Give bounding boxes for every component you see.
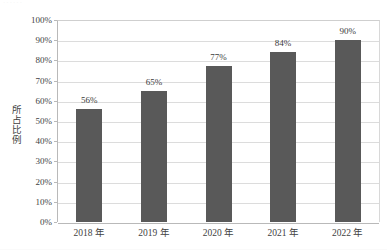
y-tick-label: 10% — [16, 198, 52, 207]
bar-value-label: 77% — [195, 53, 243, 62]
bar-value-label: 65% — [130, 78, 178, 87]
y-tick-mark — [54, 60, 57, 61]
y-tick-mark — [54, 81, 57, 82]
y-tick-mark — [54, 141, 57, 142]
y-tick-mark — [54, 202, 57, 203]
bar — [76, 109, 102, 222]
y-tick-mark — [54, 40, 57, 41]
scan-artifact: ······ — [3, 0, 37, 7]
x-tick-label: 2020 年 — [184, 228, 254, 239]
y-tick-label: 0% — [16, 218, 52, 227]
y-tick-mark — [54, 121, 57, 122]
bar — [270, 52, 296, 222]
bar-value-label: 56% — [65, 96, 113, 105]
bar — [206, 66, 232, 222]
y-tick-label: 90% — [16, 36, 52, 45]
y-tick-label: 50% — [16, 117, 52, 126]
y-tick-mark — [54, 101, 57, 102]
y-tick-label: 30% — [16, 157, 52, 166]
y-tick-label: 70% — [16, 77, 52, 86]
x-tick-label: 2019 年 — [119, 228, 189, 239]
bar — [141, 91, 167, 222]
bars-layer: 56%65%77%84%90% — [57, 20, 380, 222]
y-tick-label: 100% — [16, 16, 52, 25]
bar-value-label: 90% — [324, 27, 372, 36]
y-tick-mark — [54, 182, 57, 183]
x-tick-label: 2021 年 — [248, 228, 318, 239]
y-tick-label: 80% — [16, 56, 52, 65]
x-tick-label: 2018 年 — [54, 228, 124, 239]
y-tick-mark — [54, 20, 57, 21]
bar-value-label: 84% — [259, 39, 307, 48]
x-tick-label: 2022 年 — [313, 228, 383, 239]
y-tick-mark — [54, 161, 57, 162]
gridline — [58, 223, 379, 224]
y-tick-label: 20% — [16, 178, 52, 187]
y-tick-label: 40% — [16, 137, 52, 146]
y-tick-label: 60% — [16, 97, 52, 106]
bar — [335, 40, 361, 222]
y-tick-mark — [54, 222, 57, 223]
bar-chart: ······ 所占比例 56%65%77%84%90% 100%90%80%70… — [0, 0, 387, 250]
